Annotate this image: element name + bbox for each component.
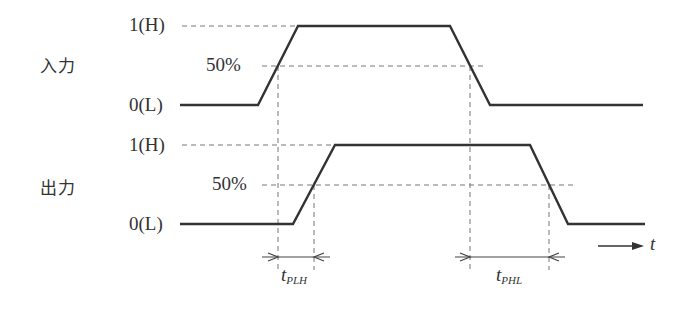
tplh-label: tPLH [281, 264, 307, 286]
output-high-label: 1(H) [129, 134, 165, 156]
timing-diagram [0, 0, 688, 309]
tplh-dimension [262, 253, 330, 261]
input-waveform [180, 26, 643, 105]
output-low-label: 0(L) [129, 213, 163, 235]
input-low-label: 0(L) [129, 94, 163, 116]
output-waveform [180, 145, 645, 224]
input-mid-label: 50% [206, 54, 241, 76]
output-signal-label: 出力 [40, 174, 76, 199]
input-signal-label: 入力 [40, 52, 76, 77]
time-axis-label: t [650, 233, 655, 255]
output-mid-label: 50% [212, 173, 247, 195]
time-arrow-icon [598, 242, 644, 250]
tphl-label: tPHL [496, 264, 522, 286]
input-high-label: 1(H) [129, 14, 165, 36]
